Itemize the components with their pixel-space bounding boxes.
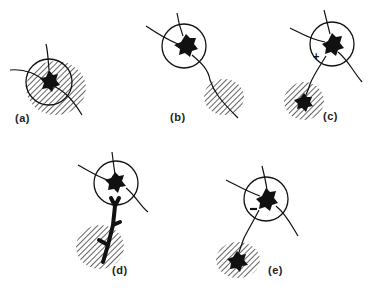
- neuron-diagram: +: [0, 0, 370, 291]
- panel-a: [10, 44, 86, 115]
- panel-label-a: (a): [15, 112, 30, 124]
- neuron-soma-icon: [322, 33, 344, 56]
- neuron-soma-icon: [105, 172, 126, 193]
- hatched-field: [204, 79, 244, 115]
- panel-c: +: [284, 10, 362, 120]
- panel-label-c: (c): [323, 110, 338, 122]
- fiber: [276, 206, 298, 236]
- panel-label-b: (b): [170, 111, 186, 123]
- fiber: [290, 28, 325, 42]
- neuron-soma-icon: [174, 34, 198, 57]
- fiber: [262, 166, 267, 190]
- panel-label-d: (d): [112, 264, 128, 276]
- fiber: [112, 152, 115, 174]
- panel-label-e: (e): [268, 264, 283, 276]
- hatched-field: [76, 225, 124, 269]
- fiber: [226, 180, 260, 196]
- panel-d: [76, 152, 148, 269]
- panel-b: [146, 13, 244, 118]
- excitatory-sign: +: [313, 50, 319, 62]
- panel-e: [216, 166, 298, 278]
- neuron-soma-icon: [256, 188, 278, 211]
